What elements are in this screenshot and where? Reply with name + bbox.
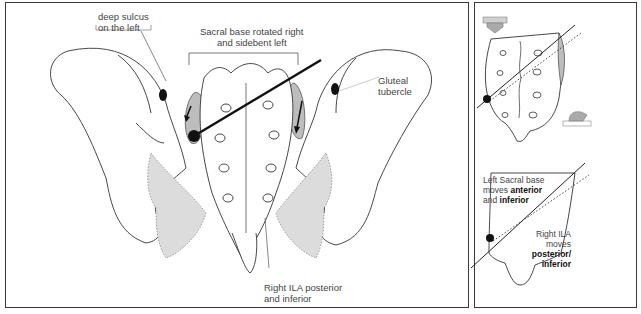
right-ila-moves-label: Right ILA moves posterior/ inferior: [523, 229, 571, 269]
left-sacral-line3-bold: inferior: [500, 195, 529, 205]
deep-sulcus-label-line2: on the left: [98, 22, 149, 33]
left-sacral-line2: moves anterior: [483, 185, 544, 195]
sacral-base-label-line2: and sidebent left: [200, 37, 304, 48]
pelvis-illustration: [6, 3, 470, 309]
side-diagram-panel: Left Sacral base moves anterior and infe…: [474, 2, 637, 308]
left-sacral-line3-text: and: [483, 195, 500, 205]
left-sacral-line1: Left Sacral base: [483, 175, 544, 185]
right-ila-line1: Right ILA: [523, 229, 571, 239]
gluteal-label-line1: Gluteal: [378, 75, 412, 86]
right-ila-label: Right ILA posterior and inferior: [264, 282, 342, 304]
left-sacral-line2-text: moves: [483, 185, 510, 195]
main-diagram-panel: deep sulcus on the left Sacral base rota…: [5, 2, 469, 308]
deep-sulcus-label: deep sulcus on the left: [98, 11, 149, 33]
sacral-base-label: Sacral base rotated right and sidebent l…: [200, 26, 304, 48]
right-ila-label-line2: and inferior: [264, 293, 342, 304]
gluteal-tubercle-label: Gluteal tubercle: [378, 75, 412, 97]
right-ila-line4-bold: inferior: [542, 259, 571, 269]
right-ila-line2: moves: [523, 239, 571, 249]
top-sacrum-figure: [477, 17, 591, 141]
deep-sulcus-label-line1: deep sulcus: [98, 11, 149, 22]
left-sacral-line3: and inferior: [483, 195, 544, 205]
gluteal-label-line2: tubercle: [378, 86, 412, 97]
sacral-base-label-line1: Sacral base rotated right: [200, 26, 304, 37]
right-ila-label-line1: Right ILA posterior: [264, 282, 342, 293]
right-ila-line3-bold: posterior/: [532, 249, 571, 259]
left-sacral-line2-bold: anterior: [510, 185, 542, 195]
left-sacral-base-label: Left Sacral base moves anterior and infe…: [483, 175, 544, 205]
